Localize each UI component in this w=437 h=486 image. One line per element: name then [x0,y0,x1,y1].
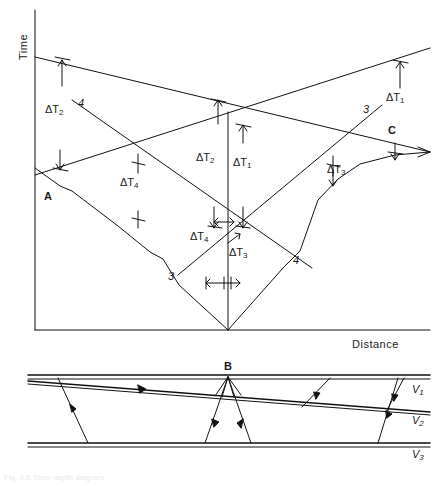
refractor-curve-right [228,152,430,330]
diagram-canvas [0,0,437,486]
velocity-label-v2: V2 [412,415,424,428]
tick-mark [132,211,145,228]
tick-mark [391,143,399,160]
tick-mark [58,60,66,86]
delta-t-label: ΔT1 [386,92,405,105]
interface-1 [28,381,430,412]
velocity-label-v3: V3 [412,449,424,462]
ray-label-4-upper-left: 4 [78,98,84,109]
tick-mark [55,57,70,60]
tick-mark [239,125,247,143]
ray-arrowhead [138,385,146,393]
point-label-b: B [224,361,232,372]
ray-arrowhead [237,419,243,428]
delta-t-label: ΔT3 [229,247,248,260]
figure-root: Time Distance ΔT2 ΔT2 ΔT1 ΔT1 ΔT4 ΔT4 ΔT… [0,0,437,486]
interface-1b [28,384,430,415]
tick-mark [56,150,64,170]
ray-path [378,378,398,443]
ray-path [205,377,228,443]
x-axis-title: Distance [352,339,399,350]
tick-mark [228,233,240,243]
tick-mark [132,154,145,173]
traveltime-line-1-forward [35,57,430,152]
y-axis-title: Time [18,34,29,60]
ray-arrowhead [70,404,76,412]
delta-t-label: ΔT3 [327,164,346,177]
refractor-curve-left [35,168,228,330]
ray-path [228,377,241,395]
dimension-arrow [206,279,240,287]
ray-arrowhead [212,419,219,427]
point-label-c: C [388,125,396,136]
point-label-a: A [44,191,52,202]
ray-line-3 [178,105,382,275]
figure-caption: Fig. 4.6 Time-depth diagram [4,474,104,482]
tick-mark [214,100,222,124]
ray-label-3-upper-right: 3 [363,104,369,115]
delta-t-label: ΔT2 [196,152,215,165]
ray-path [228,377,251,443]
delta-t-label: ΔT4 [190,231,209,244]
ray-label-4-lower-right: 4 [293,255,299,266]
dimension-arrow [214,218,234,226]
ray-arrowhead [314,392,320,399]
ray-label-3-lower-left: 3 [168,271,174,282]
delta-t-label: ΔT2 [45,104,64,117]
delta-t-label: ΔT4 [120,177,139,190]
tick-mark [396,62,404,88]
delta-t-label: ΔT1 [233,157,252,170]
velocity-label-v1: V1 [412,384,424,397]
ray-path [215,377,228,396]
